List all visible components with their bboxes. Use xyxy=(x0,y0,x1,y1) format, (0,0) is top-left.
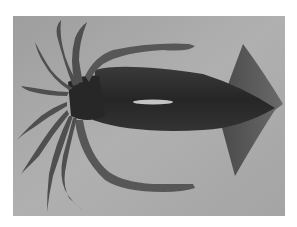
squid-photo: Grayscale photograph of a squid viewed f… xyxy=(13,16,285,216)
squid-illustration xyxy=(13,16,285,216)
mantle-highlight xyxy=(133,100,173,105)
